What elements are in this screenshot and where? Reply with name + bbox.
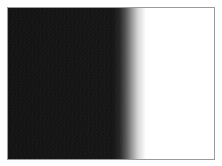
image-frame [7, 7, 215, 160]
noise-texture [8, 8, 128, 159]
